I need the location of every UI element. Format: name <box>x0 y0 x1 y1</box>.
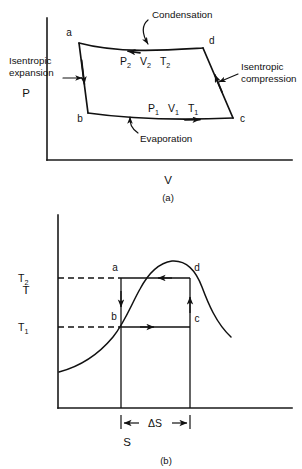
state-top-T-sub: 2 <box>166 61 170 70</box>
state-top-P-sub: 2 <box>127 61 131 70</box>
leader-isentropic-compression <box>219 74 238 82</box>
figure-root: a b d c P V (a) P2 V2 T2 P1 V1 T1 Conden… <box>0 0 302 469</box>
panel-a-diagram: a b d c P V (a) P2 V2 T2 P1 V1 T1 Conden… <box>0 0 302 205</box>
panel-a-y-axis-label: P <box>22 87 30 99</box>
annotation-evaporation: Evaporation <box>140 133 192 144</box>
panel-b-cycle-path <box>121 278 190 327</box>
svg-text:P2 V2 T2: P2 V2 T2 <box>120 55 170 70</box>
point-label-a: a <box>112 262 118 273</box>
point-label-b: b <box>77 113 83 124</box>
annotation-condensation: Condensation <box>152 9 212 20</box>
state-top-V: V <box>140 55 147 67</box>
state-bottom-P-sub: 1 <box>155 108 159 117</box>
annotation-isentropic-expansion-line2: expansion <box>9 67 54 78</box>
panel-b-diagram: T2 T1 a d b c T ΔS S (b) <box>0 205 302 469</box>
point-label-b: b <box>111 311 117 322</box>
panel-b-x-axis-label: S <box>123 436 131 448</box>
edge-b-to-c-evaporation <box>88 113 233 119</box>
panel-a-x-axis-label: V <box>164 174 172 186</box>
annotation-isentropic-compression-line1: Isentropic <box>241 61 284 72</box>
state-bottom-V: V <box>168 102 175 114</box>
panel-b-y-axis-label: T <box>22 284 29 296</box>
delta-s-label: ΔS <box>148 417 162 429</box>
delta-s-dimension: ΔS <box>121 415 190 429</box>
panel-b-axes <box>58 215 292 408</box>
point-label-d: d <box>194 262 200 273</box>
state-bottom-V-sub: 1 <box>175 108 179 117</box>
panel-a-caption: (a) <box>162 192 174 203</box>
annotation-isentropic-compression-line2: compression <box>241 73 297 84</box>
state-bottom-T-sub: 1 <box>194 108 198 117</box>
panel-b-caption: (b) <box>160 455 172 466</box>
state-top-V-sub: 2 <box>147 61 151 70</box>
arrow-condensation-direction <box>128 51 140 53</box>
state-top-P: P <box>120 55 127 67</box>
state-labels-bottom: P1 V1 T1 <box>148 102 198 117</box>
ytick-label-t1-group: T1 <box>18 321 28 336</box>
ytick-label-t1-sub: 1 <box>24 327 28 336</box>
leader-evaporation <box>130 117 138 133</box>
annotation-isentropic-expansion-line1: Isentropic <box>9 55 52 66</box>
state-labels-top: P2 V2 T2 <box>120 55 170 70</box>
arrow-compression-direction <box>215 75 222 92</box>
point-label-a: a <box>66 27 72 38</box>
leader-condensation <box>143 20 148 44</box>
point-label-c: c <box>195 313 200 324</box>
svg-text:P1 V1 T1: P1 V1 T1 <box>148 102 198 117</box>
edge-d-to-a-condensation <box>79 43 203 50</box>
state-bottom-P: P <box>148 102 155 114</box>
point-label-c: c <box>240 113 245 124</box>
point-label-d: d <box>209 35 215 46</box>
